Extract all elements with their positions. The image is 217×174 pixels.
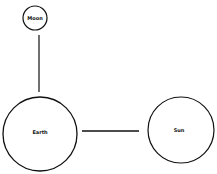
earth-label: Earth <box>32 129 48 135</box>
sun-label: Sun <box>174 127 185 133</box>
moon-label: Moon <box>27 15 43 21</box>
node-earth: Earth <box>3 97 77 171</box>
diagram-canvas: Moon Earth Sun <box>0 0 217 174</box>
node-moon: Moon <box>23 6 47 30</box>
node-sun: Sun <box>148 97 214 163</box>
